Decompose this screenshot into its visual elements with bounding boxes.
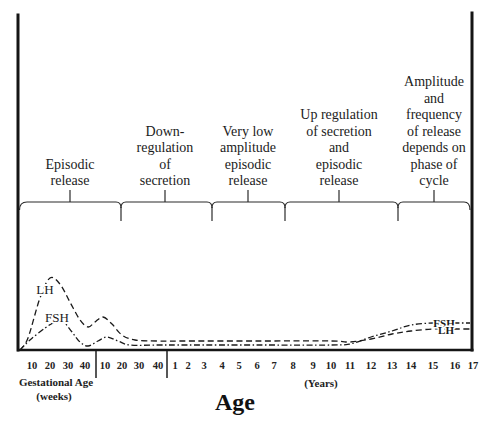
x-tick-label: 9	[310, 360, 315, 371]
phase-label-line: and	[329, 140, 349, 155]
phase-label-line: episodic	[316, 157, 363, 172]
phase-label-line: depends on	[402, 140, 465, 155]
year-ticks: 1 2 3 4 5 6 7 8 9 10 11 12 13 14 15 16 1…	[172, 360, 478, 371]
x-tick-label: 5	[236, 360, 241, 371]
phase-label-line: secretion	[140, 173, 191, 188]
phase-label-line: of	[159, 157, 171, 172]
x-tick-label: 10	[326, 360, 337, 371]
x-tick-label: 13	[387, 360, 398, 371]
x-tick-label: 30	[134, 360, 145, 371]
x-tick-label: 3	[201, 360, 206, 371]
years-unit-label: (Years)	[304, 377, 338, 390]
phase-label-line: release	[51, 173, 90, 188]
fsh-label-left: FSH	[45, 310, 69, 325]
phase-label-line: Amplitude	[404, 74, 464, 89]
x-tick-label: 15	[428, 360, 439, 371]
phase-label-line: and	[424, 91, 444, 106]
x-tick-label: 11	[345, 360, 355, 371]
x-tick-label: 4	[219, 360, 225, 371]
lh-label-left: LH	[36, 282, 53, 297]
x-tick-label: 16	[450, 360, 461, 371]
phase-label-line: Up regulation	[300, 107, 377, 122]
x-axis-title: Age	[215, 389, 255, 415]
weeks-unit-label: (weeks)	[36, 390, 72, 403]
phase-label-line: Episodic	[46, 157, 95, 172]
x-tick-label: 7	[271, 360, 276, 371]
phase-label-line: amplitude	[220, 140, 276, 155]
phase-label-episodic-release: Episodic release	[46, 157, 95, 189]
phase-label-line: of secretion	[306, 124, 372, 139]
gonadotropin-age-chart: Episodic release Down- regulation of sec…	[0, 0, 494, 424]
x-tick-label: 14	[406, 360, 417, 371]
phase-label-line: regulation	[137, 140, 194, 155]
postnatal-week-ticks: 10 20 30 40	[100, 360, 164, 371]
gestational-age-label: Gestational Age	[19, 376, 93, 388]
phase-label-line: release	[320, 173, 359, 188]
phase-label-line: episodic	[225, 157, 272, 172]
x-tick-label: 2	[185, 360, 190, 371]
phase-label-very-low-amplitude: Very low amplitude episodic release	[220, 124, 276, 189]
phase-label-down-regulation: Down- regulation of secretion	[137, 124, 194, 189]
x-tick-label: 20	[117, 360, 128, 371]
lh-label-right: LH	[438, 324, 454, 336]
x-tick-label: 6	[254, 360, 259, 371]
phase-label-cycle-dependent: Amplitude and frequency of release depen…	[402, 74, 465, 188]
phase-label-line: of release	[407, 124, 461, 139]
phase-label-line: phase of	[410, 157, 457, 172]
phase-braces	[20, 190, 471, 221]
phase-label-line: cycle	[419, 173, 449, 188]
x-tick-label: 8	[290, 360, 295, 371]
x-tick-label: 40	[80, 360, 91, 371]
phase-label-line: release	[229, 173, 268, 188]
gestational-week-ticks: 10 20 30 40	[27, 360, 91, 371]
x-tick-label: 1	[172, 360, 177, 371]
phase-label-line: frequency	[406, 107, 462, 122]
lh-curve	[20, 277, 470, 350]
x-tick-label: 12	[366, 360, 377, 371]
x-tick-label: 30	[63, 360, 74, 371]
x-tick-label: 10	[27, 360, 38, 371]
x-tick-label: 40	[153, 360, 164, 371]
x-tick-label: 20	[45, 360, 56, 371]
fsh-curve	[20, 319, 470, 350]
brace-line	[20, 202, 471, 210]
phase-label-line: Down-	[146, 124, 185, 139]
x-tick-label: 17	[468, 360, 479, 371]
phase-label-up-regulation: Up regulation of secretion and episodic …	[300, 107, 377, 188]
phase-label-line: Very low	[223, 124, 275, 139]
x-tick-label: 10	[100, 360, 111, 371]
